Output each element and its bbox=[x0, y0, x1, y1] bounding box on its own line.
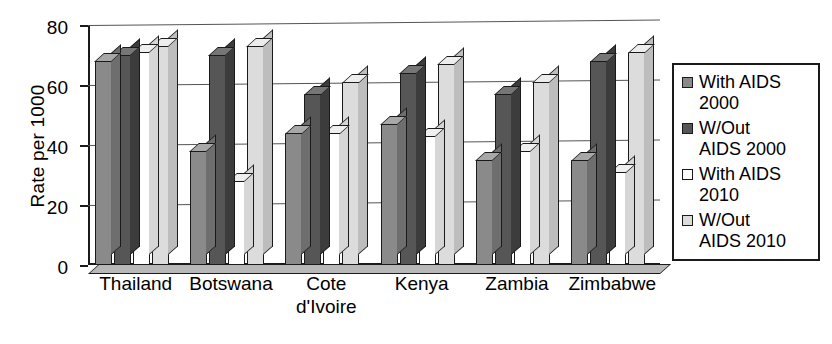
bar-group bbox=[88, 25, 183, 265]
bar bbox=[571, 160, 588, 265]
bar-side-face bbox=[168, 29, 178, 255]
legend-item[interactable]: W/Out AIDS 2000 bbox=[682, 118, 812, 160]
bar-side-face bbox=[416, 56, 426, 255]
y-tick-label-0: 0 bbox=[57, 258, 68, 277]
plot-area: 020406080 bbox=[88, 25, 660, 265]
y-tick-40: 40 bbox=[80, 145, 88, 147]
bar-side-face bbox=[435, 119, 445, 255]
legend-swatch-icon bbox=[682, 77, 693, 88]
bar-group bbox=[565, 25, 660, 265]
bar-side-face bbox=[301, 116, 311, 255]
bar-side-face bbox=[358, 65, 368, 255]
bar-group bbox=[469, 25, 564, 265]
legend-swatch-icon bbox=[682, 123, 693, 134]
y-tick-label-60: 60 bbox=[47, 78, 68, 97]
x-axis-labels: ThailandBotswanaCote d'IvoireKenyaZambia… bbox=[88, 272, 660, 334]
bar-side-face bbox=[111, 44, 121, 255]
y-axis-title: Rate per 1000 bbox=[27, 46, 49, 246]
legend-label: W/Out AIDS 2010 bbox=[699, 210, 786, 252]
bar-side-face bbox=[397, 107, 407, 255]
y-tick-label-40: 40 bbox=[47, 138, 68, 157]
bar-side-face bbox=[549, 65, 559, 255]
y-tick-0: 0 bbox=[80, 265, 88, 267]
legend-item[interactable]: With AIDS 2010 bbox=[682, 164, 812, 206]
bar-side-face bbox=[511, 77, 521, 255]
legend-swatch-icon bbox=[682, 169, 693, 180]
bar-group bbox=[279, 25, 374, 265]
legend-item[interactable]: With AIDS 2000 bbox=[682, 72, 812, 114]
bar-group bbox=[374, 25, 469, 265]
bar-chart: Rate per 1000 020406080 ThailandBotswana… bbox=[0, 0, 832, 344]
y-tick-label-20: 20 bbox=[47, 198, 68, 217]
x-axis-label: Zimbabwe bbox=[553, 272, 672, 295]
y-tick-label-80: 80 bbox=[47, 18, 68, 37]
bar-group bbox=[183, 25, 278, 265]
y-tick-20: 20 bbox=[80, 205, 88, 207]
y-tick-60: 60 bbox=[80, 85, 88, 87]
bar-side-face bbox=[339, 116, 349, 255]
y-tick-80: 80 bbox=[80, 25, 88, 27]
bar-side-face bbox=[492, 143, 502, 255]
legend-label: W/Out AIDS 2000 bbox=[699, 118, 786, 160]
bar bbox=[95, 61, 112, 265]
bar bbox=[285, 133, 302, 265]
bar bbox=[190, 151, 207, 265]
bar-side-face bbox=[644, 35, 654, 255]
bar-side-face bbox=[530, 134, 540, 255]
bar-side-face bbox=[320, 77, 330, 255]
bar-series-container bbox=[88, 25, 660, 265]
bar-side-face bbox=[130, 38, 140, 255]
legend-swatch-icon bbox=[682, 215, 693, 226]
bar-side-face bbox=[149, 35, 159, 255]
bar bbox=[476, 160, 493, 265]
bar-side-face bbox=[606, 44, 616, 255]
legend-label: With AIDS 2010 bbox=[699, 164, 781, 206]
legend-item[interactable]: W/Out AIDS 2010 bbox=[682, 210, 812, 252]
chart-legend: With AIDS 2000W/Out AIDS 2000With AIDS 2… bbox=[672, 63, 820, 261]
legend-label: With AIDS 2000 bbox=[699, 72, 781, 114]
bar-side-face bbox=[454, 47, 464, 255]
bar-side-face bbox=[225, 38, 235, 255]
bar-side-face bbox=[263, 29, 273, 255]
bar-side-face bbox=[206, 134, 216, 255]
bar bbox=[381, 124, 398, 265]
